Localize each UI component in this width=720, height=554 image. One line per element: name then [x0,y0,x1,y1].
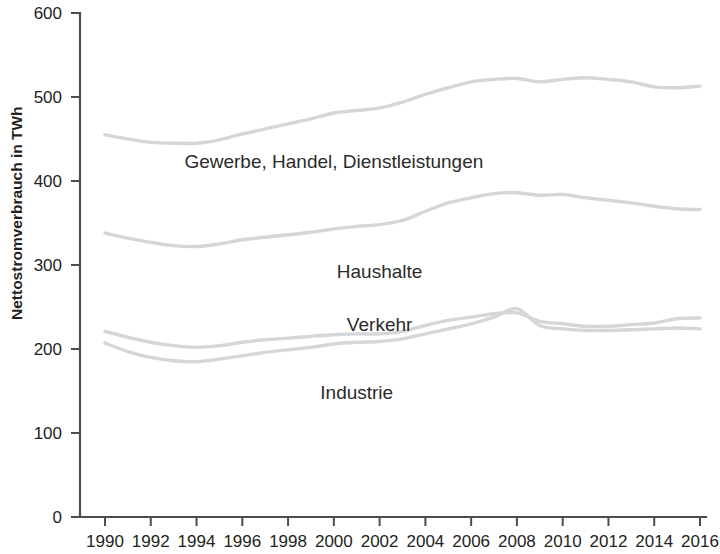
x-tick-label: 2006 [452,532,490,551]
series-label: Haushalte [337,261,423,282]
y-tick-label: 200 [34,340,62,359]
line-chart: Nettostromverbrauch in TWh 0100200300400… [0,0,720,554]
x-tick-label: 1994 [178,532,216,551]
series-labels: Gewerbe, Handel, DienstleistungenHaushal… [184,151,483,403]
x-axis-ticks: 1990199219941996199820002002200420062008… [86,517,719,551]
x-tick-label: 2002 [361,532,399,551]
y-tick-label: 0 [53,508,62,527]
x-tick-label: 1992 [132,532,170,551]
y-axis-ticks: 0100200300400500600 [34,4,80,527]
series-label: Industrie [320,382,393,403]
chart-container: Nettostromverbrauch in TWh 0100200300400… [0,0,720,554]
y-tick-label: 600 [34,4,62,23]
y-tick-label: 400 [34,172,62,191]
series-line [105,78,700,144]
x-tick-label: 1998 [269,532,307,551]
series-label: Verkehr [347,314,413,335]
series-label: Gewerbe, Handel, Dienstleistungen [184,151,483,172]
x-tick-label: 2016 [681,532,719,551]
y-axis-title: Nettostromverbrauch in TWh [8,106,25,320]
series-line [105,193,700,247]
x-tick-label: 2008 [498,532,536,551]
x-tick-label: 2012 [590,532,628,551]
x-tick-label: 1990 [86,532,124,551]
x-tick-label: 2010 [544,532,582,551]
x-tick-label: 2004 [406,532,444,551]
y-tick-label: 300 [34,256,62,275]
x-tick-label: 2014 [635,532,673,551]
y-tick-label: 100 [34,424,62,443]
y-tick-label: 500 [34,88,62,107]
x-tick-label: 1996 [223,532,261,551]
x-tick-label: 2000 [315,532,353,551]
